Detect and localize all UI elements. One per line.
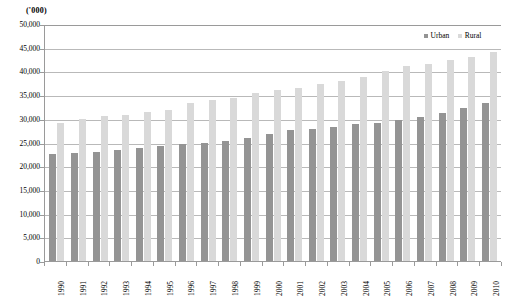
bar-group [133, 25, 155, 261]
bar-group [176, 25, 198, 261]
bar-group [241, 25, 263, 261]
bar-group [284, 25, 306, 261]
bar-urban [482, 103, 489, 261]
legend-swatch-rural-icon [458, 34, 462, 38]
x-axis-tick-label: 1991 [80, 266, 88, 296]
bar-urban [330, 127, 337, 261]
bar-rural [209, 100, 216, 261]
bar-urban [71, 153, 78, 261]
bar-urban [49, 154, 56, 261]
bar-group [457, 25, 479, 261]
bar-urban [157, 146, 164, 261]
bar-group [197, 25, 219, 261]
bar-group [392, 25, 414, 261]
x-axis-tick-label: 1993 [123, 266, 131, 296]
x-axis-tick-label: 1990 [58, 266, 66, 296]
bar-group [370, 25, 392, 261]
bar-group [479, 25, 501, 261]
bar-rural [252, 93, 259, 261]
bar-rural [101, 116, 108, 261]
legend-item-urban: Urban [424, 31, 449, 40]
x-axis-tick-label: 2001 [297, 266, 305, 296]
bar-rural [144, 112, 151, 261]
bar-group [327, 25, 349, 261]
bar-urban [179, 144, 186, 261]
chart-legend: Urban Rural [424, 31, 481, 40]
bar-group [262, 25, 284, 261]
bar-rural [382, 71, 389, 261]
bar-urban [352, 124, 359, 261]
x-axis-tick-label: 2000 [276, 266, 284, 296]
bar-rural [122, 115, 129, 261]
x-axis-tick-label: 2009 [471, 266, 479, 296]
legend-label-rural: Rural [465, 31, 482, 40]
bar-rural [360, 77, 367, 261]
bar-group [89, 25, 111, 261]
legend-label-urban: Urban [431, 31, 450, 40]
bar-rural [57, 123, 64, 261]
y-axis-tick-label: 50,000 [0, 21, 40, 29]
y-axis-tick-label: 30,000 [0, 116, 40, 124]
x-axis-tick-label: 1997 [210, 266, 218, 296]
bar-group [349, 25, 371, 261]
x-axis-tick-label: 1999 [254, 266, 262, 296]
bar-group [414, 25, 436, 261]
bar-urban [287, 130, 294, 261]
legend-swatch-urban-icon [424, 34, 428, 38]
x-axis-labels: 1990199119921993199419951996199719981999… [44, 266, 501, 298]
bar-urban [309, 129, 316, 261]
bar-rural [490, 52, 497, 261]
bar-rural [187, 103, 194, 261]
x-axis-tick-label: 1992 [101, 266, 109, 296]
bar-urban [222, 141, 229, 261]
bar-chart: ('000) 05,00010,00015,00020,00025,00030,… [0, 0, 523, 298]
x-axis-tick-label: 2002 [319, 266, 327, 296]
x-axis-tick-label: 2007 [428, 266, 436, 296]
bar-rural [165, 110, 172, 261]
bar-urban [395, 120, 402, 261]
bar-urban [93, 152, 100, 261]
bar-urban [136, 148, 143, 261]
bar-rural [79, 119, 86, 261]
bar-groups [45, 25, 501, 261]
bar-group [46, 25, 68, 261]
bar-group [435, 25, 457, 261]
bar-rural [317, 84, 324, 261]
y-axis-labels: 05,00010,00015,00020,00025,00030,00035,0… [0, 25, 40, 262]
bar-urban [201, 143, 208, 261]
x-axis-tick-label: 2006 [406, 266, 414, 296]
y-axis-tick-label: 0 [0, 258, 40, 266]
bar-urban [439, 113, 446, 261]
x-axis-tick-label: 2008 [450, 266, 458, 296]
bar-rural [468, 57, 475, 261]
bar-rural [403, 66, 410, 261]
y-axis-tick-label: 20,000 [0, 163, 40, 171]
bar-urban [417, 117, 424, 261]
bar-urban [460, 108, 467, 261]
y-axis-tick-label: 35,000 [0, 92, 40, 100]
x-axis-tick-label: 1996 [188, 266, 196, 296]
bar-rural [295, 88, 302, 261]
bar-urban [266, 134, 273, 261]
y-axis-unit-label: ('000) [26, 6, 47, 15]
bar-urban [244, 138, 251, 261]
y-axis-tick-label: 45,000 [0, 45, 40, 53]
bar-rural [447, 60, 454, 261]
bar-urban [374, 123, 381, 261]
bar-group [111, 25, 133, 261]
bar-urban [114, 150, 121, 261]
bar-rural [425, 64, 432, 261]
y-axis-tick-label: 10,000 [0, 211, 40, 219]
bar-rural [230, 98, 237, 261]
x-axis-tick-label: 1998 [232, 266, 240, 296]
bar-group [219, 25, 241, 261]
x-axis-tick-label: 2003 [341, 266, 349, 296]
x-axis-tick-label: 2010 [493, 266, 501, 296]
y-axis-tick-label: 25,000 [0, 140, 40, 148]
y-axis-tick-label: 5,000 [0, 234, 40, 242]
plot-area [44, 25, 501, 262]
bar-group [68, 25, 90, 261]
bar-rural [338, 81, 345, 261]
bar-rural [274, 90, 281, 261]
bar-group [154, 25, 176, 261]
